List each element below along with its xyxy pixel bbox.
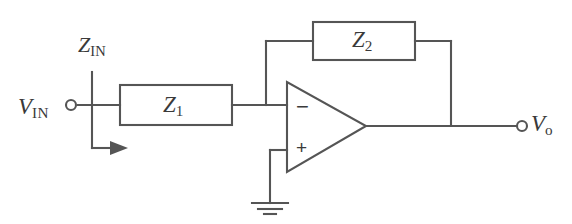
label-impedance-z2-subscript: 2 (365, 37, 373, 54)
input-current-arrowhead (110, 141, 128, 155)
label-output-voltage: Vo (531, 112, 553, 135)
label-input-impedance: ZIN (78, 34, 106, 56)
label-impedance-z1-subscript: 1 (176, 102, 184, 119)
label-input-impedance-subscript: IN (90, 43, 106, 59)
noninverting-input-sign: + (296, 138, 307, 157)
label-input-voltage: VIN (18, 95, 49, 118)
inverting-input-sign: − (296, 96, 309, 118)
input-terminal-circle (66, 100, 76, 110)
label-impedance-z1: Z1 (163, 93, 184, 116)
label-output-voltage-subscript: o (545, 121, 553, 138)
output-terminal-circle (517, 121, 527, 131)
label-input-voltage-subscript: IN (32, 104, 49, 121)
label-impedance-z2: Z2 (352, 28, 373, 51)
circuit-diagram-canvas: ZIN VIN Vo Z1 Z2 − + (0, 0, 572, 224)
